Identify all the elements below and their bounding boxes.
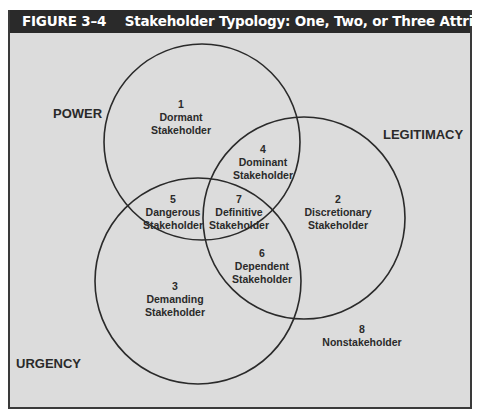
- figure-panel: FIGURE 3–4 Stakeholder Typology: One, Tw…: [8, 10, 472, 409]
- power-label: POWER: [53, 106, 102, 121]
- region-suffix: Stakeholder: [304, 219, 371, 232]
- region-suffix: Stakeholder: [233, 169, 293, 182]
- region-1-dormant: 1 Dormant Stakeholder: [151, 98, 211, 137]
- region-name: Dangerous: [143, 206, 203, 219]
- region-suffix: Stakeholder: [151, 124, 211, 137]
- region-8-nonstakeholder: 8 Nonstakeholder: [322, 323, 401, 349]
- region-suffix: Stakeholder: [209, 219, 269, 232]
- region-number: 6: [232, 247, 292, 260]
- region-5-dangerous: 5 Dangerous Stakeholder: [143, 193, 203, 232]
- region-number: 4: [233, 143, 293, 156]
- region-number: 5: [143, 193, 203, 206]
- region-name: Nonstakeholder: [322, 336, 401, 349]
- region-6-dependent: 6 Dependent Stakeholder: [232, 247, 292, 286]
- region-name: Dominant: [233, 156, 293, 169]
- region-name: Dormant: [151, 111, 211, 124]
- region-number: 1: [151, 98, 211, 111]
- region-4-dominant: 4 Dominant Stakeholder: [233, 143, 293, 182]
- region-suffix: Stakeholder: [232, 273, 292, 286]
- region-number: 3: [145, 280, 205, 293]
- region-name: Demanding: [145, 293, 205, 306]
- region-7-definitive: 7 Definitive Stakeholder: [209, 193, 269, 232]
- region-suffix: Stakeholder: [145, 306, 205, 319]
- region-suffix: Stakeholder: [143, 219, 203, 232]
- legitimacy-label: LEGITIMACY: [383, 127, 463, 142]
- region-number: 8: [322, 323, 401, 336]
- region-number: 2: [304, 193, 371, 206]
- region-name: Discretionary: [304, 206, 371, 219]
- region-name: Definitive: [209, 206, 269, 219]
- urgency-label: URGENCY: [16, 356, 81, 371]
- region-3-demanding: 3 Demanding Stakeholder: [145, 280, 205, 319]
- region-number: 7: [209, 193, 269, 206]
- region-name: Dependent: [232, 260, 292, 273]
- region-2-discretionary: 2 Discretionary Stakeholder: [304, 193, 371, 232]
